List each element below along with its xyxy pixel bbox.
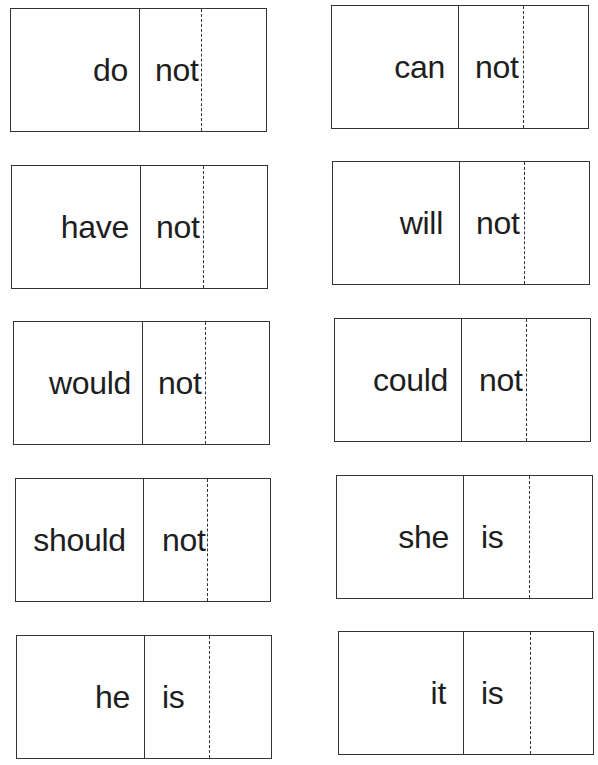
card-second-word: not [140, 9, 199, 131]
card-second-word: not [143, 322, 202, 444]
card-second-word: is [464, 476, 504, 598]
word-card-he-is: he is [16, 635, 272, 759]
card-second-word: not [144, 479, 206, 601]
card-second-word: not [460, 162, 520, 284]
card-second-word: not [141, 166, 200, 288]
card-second-word: not [462, 319, 523, 441]
fold-line [201, 9, 202, 131]
card-second-word: is [145, 636, 185, 758]
fold-line [526, 319, 527, 441]
fold-line [209, 636, 210, 758]
card-first-word: he [17, 636, 145, 758]
fold-line [207, 479, 208, 601]
fold-line [523, 6, 524, 128]
fold-line [205, 322, 206, 444]
fold-line [530, 632, 531, 754]
word-card-would-not: would not [13, 321, 270, 445]
word-card-should-not: should not [15, 478, 271, 602]
card-first-word: it [339, 632, 464, 754]
fold-line [529, 476, 530, 598]
word-card-will-not: will not [332, 161, 590, 285]
card-first-word: she [337, 476, 464, 598]
word-card-do-not: do not [10, 8, 267, 132]
card-second-word: not [459, 6, 519, 128]
word-card-have-not: have not [11, 165, 268, 289]
word-card-it-is: it is [338, 631, 594, 755]
fold-line [524, 162, 525, 284]
card-first-word: will [333, 162, 460, 284]
card-first-word: can [332, 6, 459, 128]
card-first-word: have [12, 166, 141, 288]
card-first-word: would [14, 322, 143, 444]
card-first-word: do [11, 9, 140, 131]
card-second-word: is [464, 632, 504, 754]
word-card-can-not: can not [331, 5, 589, 129]
card-first-word: should [16, 479, 144, 601]
fold-line [203, 166, 204, 288]
card-first-word: could [335, 319, 462, 441]
word-card-she-is: she is [336, 475, 593, 599]
word-card-could-not: could not [334, 318, 591, 442]
